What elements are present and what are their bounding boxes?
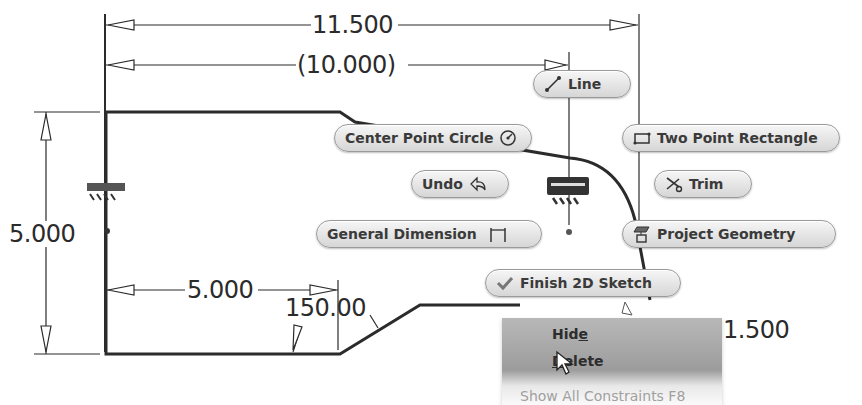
dimension-height[interactable]: 5.000 bbox=[8, 221, 76, 247]
horizontal-constraint-icon bbox=[547, 177, 589, 235]
general-dimension-button[interactable]: General Dimension bbox=[316, 220, 542, 248]
project-geometry-button[interactable]: Project Geometry bbox=[622, 220, 836, 248]
undo-icon bbox=[469, 175, 487, 193]
dimension-icon bbox=[489, 225, 507, 243]
line-icon bbox=[544, 75, 562, 93]
context-menu: Hide Delete Show All Constraints F8 bbox=[502, 318, 722, 405]
dimension-overall-width[interactable]: 11.500 bbox=[311, 12, 394, 38]
undo-button[interactable]: Undo bbox=[411, 170, 509, 198]
trim-button[interactable]: Trim bbox=[654, 170, 752, 198]
rectangle-icon bbox=[633, 129, 651, 147]
dimension-partial-right[interactable]: 1.500 bbox=[722, 317, 790, 343]
line-button[interactable]: Line bbox=[533, 70, 631, 98]
context-menu-show-all-constraints[interactable]: Show All Constraints F8 bbox=[520, 388, 685, 404]
dimension-bottom-length[interactable]: 5.000 bbox=[186, 277, 254, 303]
sketch-canvas[interactable] bbox=[0, 0, 862, 405]
dimension-angle[interactable]: 150.00 bbox=[284, 295, 367, 321]
arrowhead bbox=[108, 20, 134, 30]
line-label: Line bbox=[568, 76, 601, 92]
circle-icon bbox=[499, 129, 517, 147]
undo-label: Undo bbox=[422, 176, 463, 192]
two-point-rectangle-label: Two Point Rectangle bbox=[657, 130, 818, 146]
center-point-circle-label: Center Point Circle bbox=[345, 130, 493, 146]
project-geometry-label: Project Geometry bbox=[657, 226, 795, 242]
dimension-reference-width[interactable]: (10.000) bbox=[296, 52, 397, 78]
center-point-circle-button[interactable]: Center Point Circle bbox=[334, 124, 532, 152]
scissors-icon bbox=[665, 175, 683, 193]
general-dimension-label: General Dimension bbox=[327, 226, 477, 242]
mouse-cursor-icon bbox=[555, 350, 575, 378]
checkmark-icon bbox=[496, 274, 514, 292]
two-point-rectangle-button[interactable]: Two Point Rectangle bbox=[622, 124, 840, 152]
trim-label: Trim bbox=[689, 176, 723, 192]
finish-2d-sketch-label: Finish 2D Sketch bbox=[520, 275, 652, 291]
finish-2d-sketch-button[interactable]: Finish 2D Sketch bbox=[485, 269, 681, 297]
context-menu-hide[interactable]: Hide bbox=[552, 326, 588, 342]
project-geometry-icon bbox=[633, 225, 651, 243]
